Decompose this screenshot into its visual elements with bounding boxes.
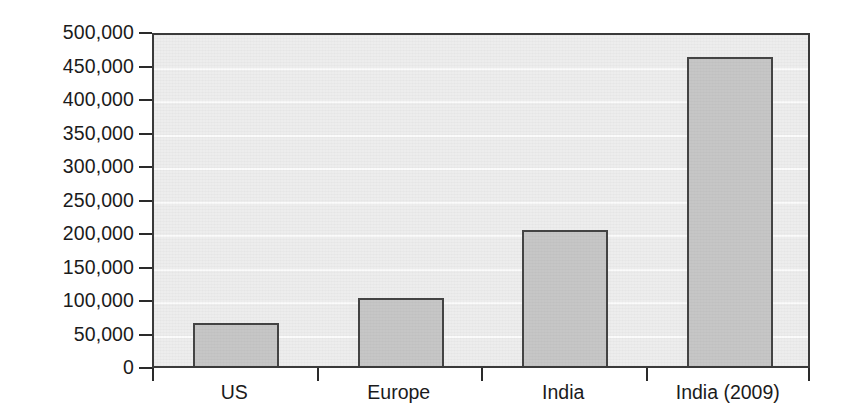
y-axis-tick-mark [139, 133, 152, 135]
x-axis-category-label: India [542, 381, 584, 404]
bar [193, 323, 279, 366]
y-axis-tick-mark [139, 99, 152, 101]
x-axis-tick-mark [808, 368, 810, 381]
y-axis-tick-mark [139, 166, 152, 168]
x-axis-category-label: India (2009) [676, 381, 780, 404]
y-axis-tick-mark [139, 267, 152, 269]
y-axis-tick-label: 250,000 [0, 191, 134, 211]
y-axis-tick-label: 0 [0, 358, 134, 378]
y-axis-tick-mark [139, 200, 152, 202]
x-axis-tick-mark [152, 368, 154, 381]
y-axis-tick-mark [139, 32, 152, 34]
x-axis-category-label: US [221, 381, 248, 404]
y-axis-tick-label: 400,000 [0, 90, 134, 110]
x-axis-tick-mark [317, 368, 319, 381]
x-axis-ticks [152, 368, 810, 382]
bar [522, 230, 608, 366]
y-axis-tick-label: 350,000 [0, 124, 134, 144]
y-axis-tick-label: 150,000 [0, 258, 134, 278]
bar [358, 298, 444, 366]
plot-area [152, 33, 810, 368]
y-axis-tick-label: 50,000 [0, 325, 134, 345]
y-axis-tick-label: 100,000 [0, 291, 134, 311]
y-axis-tick-mark [139, 233, 152, 235]
y-axis-tick-label: 500,000 [0, 23, 134, 43]
y-axis-tick-mark [139, 300, 152, 302]
y-axis: 050,000100,000150,000200,000250,000300,0… [0, 0, 134, 419]
x-axis-category-label: Europe [367, 381, 430, 404]
x-axis: USEuropeIndiaIndia (2009) [152, 381, 810, 413]
y-axis-tick-mark [139, 367, 152, 369]
y-axis-tick-mark [139, 334, 152, 336]
y-axis-tick-label: 300,000 [0, 157, 134, 177]
bar [687, 57, 773, 366]
x-axis-tick-mark [481, 368, 483, 381]
y-axis-tick-label: 200,000 [0, 224, 134, 244]
y-axis-tick-label: 450,000 [0, 57, 134, 77]
x-axis-tick-mark [646, 368, 648, 381]
y-axis-tick-mark [139, 66, 152, 68]
bar-chart: 050,000100,000150,000200,000250,000300,0… [0, 0, 853, 419]
